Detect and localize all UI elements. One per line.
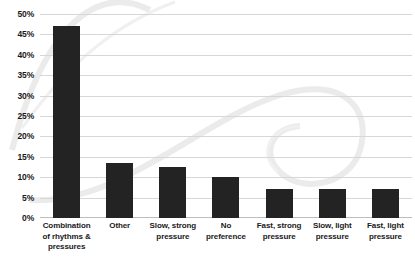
x-axis-category-line: Fast, light: [367, 221, 404, 230]
x-axis-category-label: Combinationof rhythms &pressures: [40, 221, 93, 264]
bar-slot: [40, 14, 93, 218]
bars-group: [40, 14, 412, 218]
x-label-slot: Fast, lightpressure: [359, 221, 412, 264]
x-axis-category-line: No: [221, 221, 231, 230]
x-axis-category-line: preference: [206, 232, 246, 241]
bar-slot: [306, 14, 359, 218]
x-label-slot: Fast, strongpressure: [253, 221, 306, 264]
x-label-slot: Other: [93, 221, 146, 264]
x-axis-category-line: Combination: [43, 221, 91, 230]
bar[interactable]: [372, 189, 399, 218]
x-axis-category-line: Other: [109, 221, 130, 230]
y-axis-tick-label: 50%: [0, 9, 34, 19]
bar-chart: 50%45%40%35%30%25%20%15%10%5%0% Combinat…: [0, 0, 415, 264]
y-axis-tick-label: 10%: [0, 172, 34, 182]
x-axis-category-line: pressure: [156, 232, 189, 241]
x-axis-category-line: pressure: [263, 232, 296, 241]
bar-slot: [93, 14, 146, 218]
bar[interactable]: [266, 189, 293, 218]
y-axis: 50%45%40%35%30%25%20%15%10%5%0%: [0, 14, 34, 218]
x-axis-category-label: Fast, lightpressure: [359, 221, 412, 264]
x-label-slot: Nopreference: [199, 221, 252, 264]
bar[interactable]: [319, 189, 346, 218]
y-axis-tick-label: 20%: [0, 131, 34, 141]
bar-slot: [359, 14, 412, 218]
x-axis-category-line: pressures: [48, 242, 85, 251]
y-axis-tick-label: 35%: [0, 70, 34, 80]
x-axis-category-line: Slow, strong: [150, 221, 197, 230]
bar-slot: [253, 14, 306, 218]
y-axis-tick-label: 45%: [0, 29, 34, 39]
x-label-slot: Slow, lightpressure: [306, 221, 359, 264]
x-axis-category-line: pressure: [369, 232, 402, 241]
y-axis-tick-label: 25%: [0, 111, 34, 121]
bar-slot: [146, 14, 199, 218]
y-axis-tick-label: 40%: [0, 50, 34, 60]
x-axis-category-line: Fast, strong: [257, 221, 302, 230]
x-axis-category-label: Fast, strongpressure: [253, 221, 306, 264]
bar[interactable]: [212, 177, 239, 218]
y-axis-tick-label: 15%: [0, 152, 34, 162]
y-axis-tick-label: 0%: [0, 213, 34, 223]
x-axis-category-label: Slow, lightpressure: [306, 221, 359, 264]
y-axis-tick-label: 30%: [0, 91, 34, 101]
bar[interactable]: [159, 167, 186, 218]
x-axis-category-line: of rhythms &: [43, 232, 91, 241]
y-axis-tick-label: 5%: [0, 193, 34, 203]
x-axis-category-label: Nopreference: [199, 221, 252, 264]
x-label-slot: Combinationof rhythms &pressures: [40, 221, 93, 264]
bar[interactable]: [53, 26, 80, 218]
x-axis: Combinationof rhythms &pressuresOtherSlo…: [40, 221, 412, 264]
x-axis-category-line: pressure: [316, 232, 349, 241]
x-label-slot: Slow, strongpressure: [146, 221, 199, 264]
bar[interactable]: [106, 163, 133, 218]
x-axis-category-line: Slow, light: [313, 221, 352, 230]
plot-area: [40, 14, 412, 218]
bar-slot: [199, 14, 252, 218]
x-axis-category-label: Slow, strongpressure: [146, 221, 199, 264]
x-axis-category-label: Other: [93, 221, 146, 264]
